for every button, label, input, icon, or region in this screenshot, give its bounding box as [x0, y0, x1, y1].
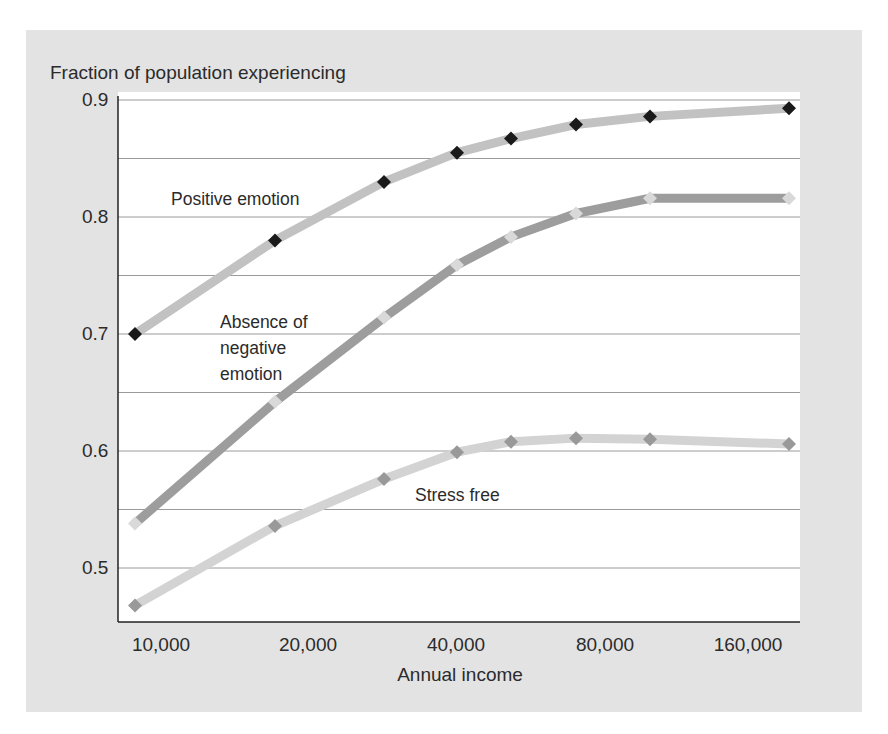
y-tick-label: 0.8	[82, 206, 108, 228]
diamond-marker	[782, 191, 796, 205]
series-label-positive-emotion: Positive emotion	[171, 189, 299, 210]
series-line	[135, 108, 789, 334]
series-label-absence-negative: emotion	[220, 364, 282, 385]
diamond-marker	[782, 101, 796, 115]
diamond-marker	[782, 437, 796, 451]
x-tick-label: 20,000	[279, 634, 337, 656]
x-tick-label: 10,000	[132, 634, 190, 656]
series-line	[135, 198, 789, 523]
y-axis-title: Fraction of population experiencing	[50, 62, 346, 84]
y-tick-label: 0.5	[82, 557, 108, 579]
y-tick-label: 0.9	[82, 89, 108, 111]
series-label-absence-negative: Absence of	[220, 312, 308, 333]
diamond-marker	[569, 431, 583, 445]
diamond-marker	[643, 432, 657, 446]
x-tick-label: 80,000	[576, 634, 634, 656]
x-tick-label: 40,000	[427, 634, 485, 656]
y-tick-label: 0.6	[82, 440, 108, 462]
x-tick-label: 160,000	[714, 634, 783, 656]
series-label-absence-negative: negative	[220, 338, 286, 359]
series-label-stress-free: Stress free	[415, 485, 500, 506]
line-chart	[0, 0, 888, 734]
y-tick-label: 0.7	[82, 323, 108, 345]
x-axis-title: Annual income	[397, 664, 523, 686]
series-line	[135, 438, 789, 605]
